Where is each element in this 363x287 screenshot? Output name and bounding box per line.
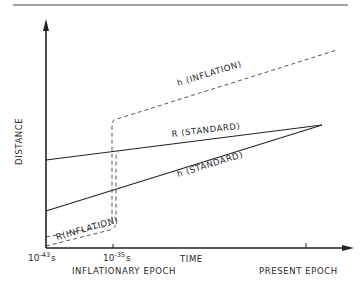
label-present-epoch: PRESENT EPOCH: [259, 266, 338, 276]
y-axis-label: DISTANCE: [14, 118, 24, 165]
tick-label-start: 10-43s: [28, 251, 56, 263]
label-r-inflation: R(INFLATION): [55, 215, 120, 242]
label-inflationary-epoch: INFLATIONARY EPOCH: [72, 266, 176, 276]
x-axis-label: TIME: [179, 254, 203, 264]
inflation-diagram: h (INFLATION) R (STANDARD) h (STANDARD) …: [0, 0, 363, 287]
label-h-inflation: h (INFLATION): [176, 59, 243, 88]
y-axis-arrow-icon: [43, 19, 49, 31]
label-h-standard: h (STANDARD): [176, 149, 245, 179]
x-axis-arrow-icon: [342, 245, 354, 251]
tick-label-inflation: 10-35s: [103, 251, 131, 263]
